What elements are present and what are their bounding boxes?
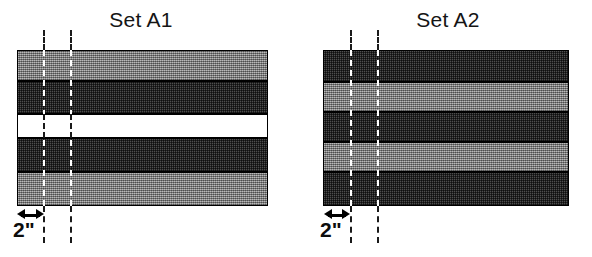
specimen-set-a2 [323, 50, 569, 206]
reference-line-2-bottom-set-a1 [70, 206, 72, 243]
reference-line-1-set-a2 [350, 50, 352, 206]
band-dark-upper [17, 81, 268, 114]
specimen-set-a1 [17, 50, 268, 206]
band-light-top [17, 50, 268, 81]
panel-title-set-a2: Set A2 [385, 8, 511, 32]
dimension-arrow-set-a1 [17, 209, 44, 220]
reference-line-2-set-a2 [377, 50, 379, 206]
reference-line-1-bottom-set-a2 [350, 206, 352, 243]
band-light-upper [323, 82, 569, 112]
band-void-middle [17, 114, 268, 138]
figure-canvas: Set A1 2" Set A2 [0, 0, 592, 257]
arrowhead-right-icon [36, 209, 44, 219]
dimension-arrow-set-a2 [324, 209, 350, 220]
reference-line-2-top-set-a1 [70, 30, 72, 50]
reference-line-1-top-set-a1 [43, 30, 45, 50]
band-light-bottom [17, 172, 268, 206]
reference-line-1-top-set-a2 [350, 30, 352, 50]
reference-line-2-top-set-a2 [377, 30, 379, 50]
panel-title-set-a1: Set A1 [78, 8, 204, 32]
dimension-label-set-a1: 2" [13, 219, 35, 240]
reference-line-1-void-set-a1 [43, 114, 45, 138]
dimension-label-set-a2: 2" [320, 219, 342, 240]
reference-line-2-void-set-a1 [70, 114, 72, 138]
band-light-lower [323, 142, 569, 172]
band-dark-middle [323, 112, 569, 142]
band-dark-lower [17, 138, 268, 172]
arrowhead-right-icon [342, 209, 350, 219]
band-dark-top [323, 50, 569, 82]
band-dark-bottom [323, 172, 569, 206]
reference-line-2-bottom-set-a2 [377, 206, 379, 243]
